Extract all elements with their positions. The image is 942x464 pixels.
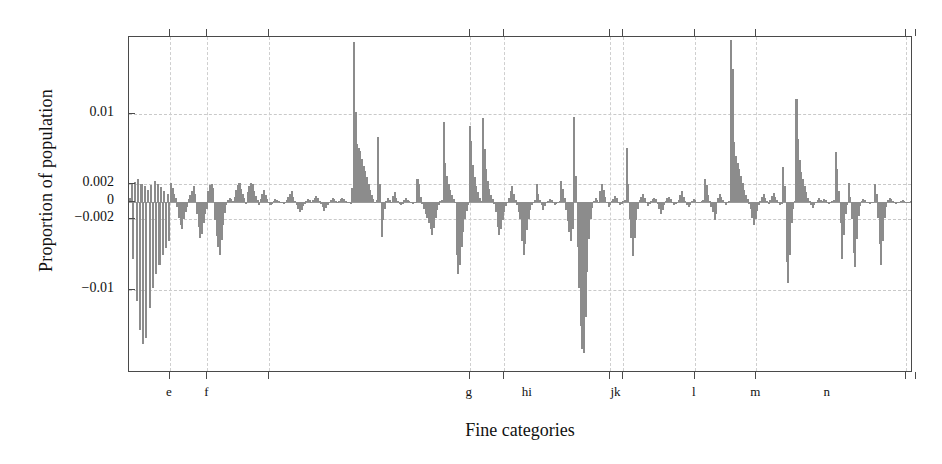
x-axis-tick-label: n — [824, 384, 831, 400]
x-axis-tick-label: m — [750, 384, 760, 400]
plot-area — [128, 36, 912, 372]
bar — [911, 202, 912, 203]
bar — [609, 202, 611, 205]
bar — [328, 202, 330, 203]
y-axis-tick — [128, 201, 135, 202]
bar — [194, 194, 196, 202]
gridline-vertical — [695, 37, 696, 371]
gridline-horizontal — [129, 290, 911, 291]
bar — [784, 186, 786, 202]
bar — [310, 202, 312, 203]
bar — [139, 202, 141, 330]
x-axis-tick-top — [694, 29, 695, 36]
bar — [758, 202, 760, 206]
bar — [727, 202, 729, 203]
chart-figure: Proportion of population 0.010.0020−0.00… — [0, 0, 942, 464]
bar — [160, 187, 162, 202]
x-axis-tick — [609, 372, 610, 379]
x-axis-tick — [206, 372, 207, 379]
bar — [284, 202, 286, 203]
bar — [384, 202, 386, 209]
bar — [557, 202, 559, 203]
x-axis-tick — [268, 372, 269, 379]
bar — [546, 202, 548, 203]
bar — [258, 202, 260, 205]
y-axis-tick — [128, 218, 135, 219]
bar — [149, 202, 151, 308]
y-axis-tick-label: 0 — [0, 192, 114, 208]
bar — [150, 185, 152, 202]
gridline-horizontal — [129, 184, 911, 185]
x-axis-tick-top — [169, 29, 170, 36]
gridline-vertical — [470, 37, 471, 371]
bar — [245, 202, 247, 204]
x-axis-tick — [622, 372, 623, 379]
bar — [875, 194, 877, 202]
bar — [390, 202, 392, 203]
x-axis-tick — [915, 372, 916, 379]
bar — [768, 202, 770, 204]
gridline-vertical — [623, 37, 624, 371]
y-axis-tick — [128, 183, 135, 184]
bar — [155, 202, 157, 274]
bar — [162, 202, 164, 256]
bar — [157, 184, 159, 202]
x-axis-tick-label: g — [466, 384, 473, 400]
bar — [158, 202, 160, 265]
bar — [131, 184, 133, 202]
bar — [144, 186, 146, 202]
bar — [663, 202, 665, 206]
bar — [154, 181, 156, 202]
x-axis-tick — [469, 372, 470, 379]
gridline-horizontal — [129, 219, 911, 220]
bar — [815, 202, 817, 203]
bar — [165, 202, 167, 248]
bar — [212, 188, 214, 202]
bar — [838, 191, 840, 202]
x-axis-tick-label: l — [692, 384, 696, 400]
x-axis-title: Fine categories — [128, 420, 912, 441]
bar — [908, 202, 910, 203]
bar — [168, 202, 170, 241]
bar — [591, 202, 593, 208]
bar — [147, 190, 149, 202]
x-axis-tick-top — [622, 29, 623, 36]
x-axis-tick-label: f — [204, 384, 208, 400]
x-axis-tick — [694, 372, 695, 379]
bar — [136, 202, 138, 301]
bar — [621, 202, 623, 204]
bar — [145, 202, 147, 338]
y-axis-tick — [128, 113, 135, 114]
x-axis-tick-top — [503, 29, 504, 36]
bar — [350, 202, 352, 204]
x-axis-tick-top — [905, 29, 906, 36]
gridline-vertical — [906, 37, 907, 371]
x-axis-tick-top — [469, 29, 470, 36]
bar — [167, 194, 169, 202]
bar — [898, 202, 900, 203]
bar — [163, 191, 165, 202]
x-axis-tick-label: e — [166, 384, 172, 400]
bar — [627, 184, 629, 202]
bar — [872, 202, 874, 203]
bar — [415, 202, 417, 203]
bar — [206, 202, 208, 209]
x-axis-tick-top — [609, 29, 610, 36]
bar — [699, 202, 701, 203]
bar — [637, 202, 639, 209]
y-axis-tick-label: −0.002 — [0, 209, 114, 225]
bar — [467, 202, 469, 205]
bar — [715, 202, 717, 214]
bar — [846, 202, 848, 206]
bar — [859, 202, 861, 206]
bar — [134, 182, 136, 202]
bar — [689, 202, 691, 205]
bar — [140, 184, 142, 202]
x-axis-tick-top — [755, 29, 756, 36]
x-axis-tick-label: hi — [522, 384, 532, 400]
y-axis-tick-label: 0.01 — [0, 104, 114, 120]
gridline-horizontal — [129, 114, 911, 115]
x-axis-tick — [503, 372, 504, 379]
bar — [137, 179, 139, 202]
bar — [885, 202, 887, 207]
